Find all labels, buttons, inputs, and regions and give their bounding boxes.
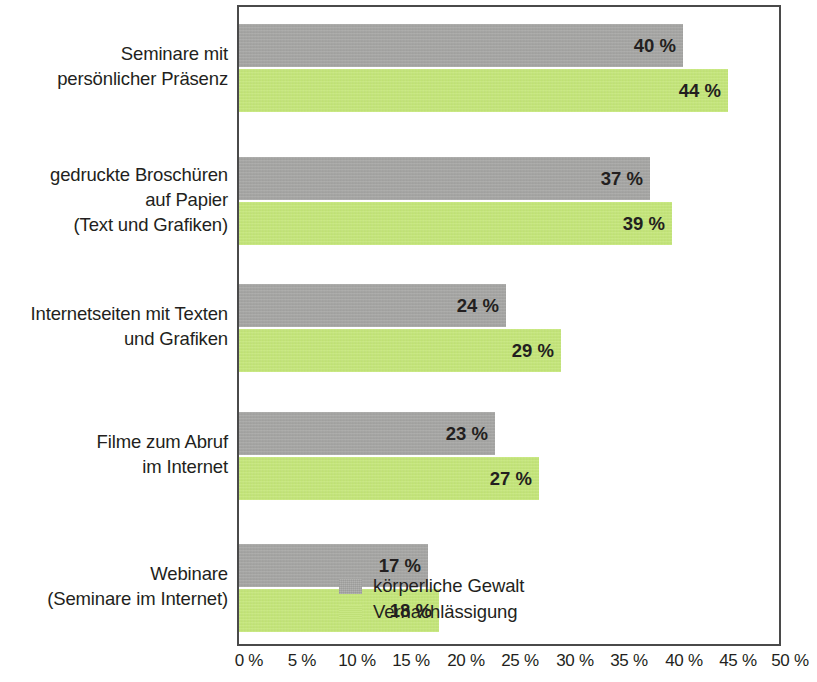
category-axis-labels: Seminare mit persönlicher Präsenz gedruc… bbox=[0, 5, 228, 646]
bar-value-label: 27 % bbox=[490, 468, 532, 490]
bar-koerperliche-gewalt-broschueren: 37 % bbox=[239, 157, 650, 200]
bar-koerperliche-gewalt-internetseiten: 24 % bbox=[239, 284, 506, 327]
x-tick-label: 30 % bbox=[556, 651, 594, 671]
category-label-internetseiten: Internetseiten mit Texten und Grafiken bbox=[0, 301, 228, 351]
x-tick-label: 20 % bbox=[447, 651, 485, 671]
category-label-webinare: Webinare (Seminare im Internet) bbox=[0, 561, 228, 611]
bar-value-label: 29 % bbox=[512, 340, 554, 362]
category-label-filme: Filme zum Abruf im Internet bbox=[0, 429, 228, 479]
bar-value-label: 23 % bbox=[446, 423, 488, 445]
bar-koerperliche-gewalt-filme: 23 % bbox=[239, 412, 495, 455]
bar-vernachlaessigung-broschueren: 39 % bbox=[239, 202, 672, 245]
legend-swatch-icon bbox=[339, 579, 362, 594]
legend-item-koerperliche-gewalt: körperliche Gewalt bbox=[339, 573, 539, 599]
x-tick-label: 15 % bbox=[392, 651, 430, 671]
category-label-broschueren: gedruckte Broschüren auf Papier (Text un… bbox=[0, 162, 228, 237]
bar-value-label: 40 % bbox=[634, 35, 676, 57]
bar-chart: Seminare mit persönlicher Präsenz gedruc… bbox=[0, 0, 817, 682]
x-axis: 0 % 5 % 10 % 15 % 20 % 25 % 30 % 35 % 40… bbox=[0, 651, 817, 679]
legend: körperliche Gewalt Vernachlässigung bbox=[339, 573, 539, 625]
legend-item-vernachlaessigung: Vernachlässigung bbox=[339, 599, 539, 625]
bar-vernachlaessigung-seminare: 44 % bbox=[239, 69, 728, 112]
legend-label: Vernachlässigung bbox=[373, 601, 517, 623]
bar-vernachlaessigung-filme: 27 % bbox=[239, 457, 539, 500]
x-tick-label: 35 % bbox=[610, 651, 648, 671]
x-tick-label: 5 % bbox=[288, 651, 316, 671]
x-tick-label: 40 % bbox=[665, 651, 703, 671]
x-tick-label: 50 % bbox=[771, 651, 809, 671]
x-tick-label: 0 % bbox=[235, 651, 263, 671]
bar-value-label: 24 % bbox=[457, 295, 499, 317]
plot-inner: 40 % 44 % 37 % 39 % 24 % 29 % 23 % bbox=[239, 7, 779, 644]
category-label-seminare-praesenz: Seminare mit persönlicher Präsenz bbox=[0, 41, 228, 91]
plot-area: 40 % 44 % 37 % 39 % 24 % 29 % 23 % bbox=[237, 5, 781, 646]
x-tick-label: 45 % bbox=[719, 651, 757, 671]
bar-vernachlaessigung-internetseiten: 29 % bbox=[239, 329, 561, 372]
x-tick-label: 10 % bbox=[338, 651, 376, 671]
bar-value-label: 39 % bbox=[623, 213, 665, 235]
legend-swatch-icon bbox=[339, 605, 362, 620]
bar-value-label: 44 % bbox=[679, 80, 721, 102]
legend-label: körperliche Gewalt bbox=[373, 575, 524, 597]
x-tick-label: 25 % bbox=[501, 651, 539, 671]
bar-value-label: 37 % bbox=[601, 168, 643, 190]
bar-koerperliche-gewalt-seminare: 40 % bbox=[239, 24, 683, 67]
